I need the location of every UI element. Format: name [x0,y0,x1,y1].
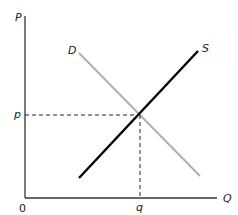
equilibrium-quantity-label: q [136,201,143,214]
price-axis-label: P [15,11,22,24]
supply-label: S [202,42,209,55]
demand-label: D [68,44,76,57]
origin-label: 0 [19,202,26,215]
equilibrium-price-label: p [13,108,21,121]
supply-demand-diagram: P Q 0 D S p q [0,0,238,215]
quantity-axis-label: Q [223,192,232,205]
